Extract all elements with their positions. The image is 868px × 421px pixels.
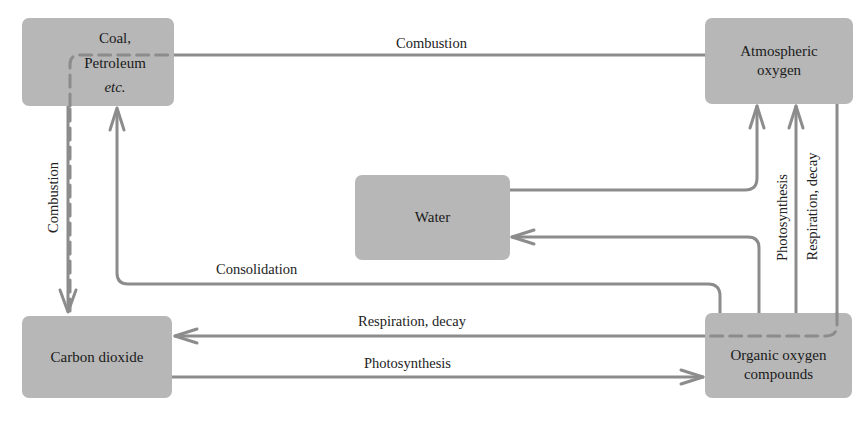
edge-label-combustion-left: Combustion	[45, 162, 62, 233]
node-water: Water	[355, 175, 510, 260]
organic-label-line2: compounds	[744, 365, 813, 384]
atmo-label-line2: oxygen	[757, 61, 801, 80]
atmo-label-line1: Atmospheric	[740, 42, 817, 61]
coal-label-line1: Coal,	[60, 29, 170, 48]
edge-label-respiration-bottom: Respiration, decay	[358, 313, 466, 330]
edge-label-respiration-right: Respiration, decay	[804, 153, 821, 261]
water-to-atmo-line	[510, 106, 757, 190]
edge-label-combustion-top: Combustion	[396, 35, 467, 52]
node-carbon-dioxide: Carbon dioxide	[22, 316, 172, 398]
edge-label-photosynthesis-right: Photosynthesis	[774, 174, 791, 261]
co2-label: Carbon dioxide	[51, 348, 144, 367]
edge-label-photosynthesis-bottom: Photosynthesis	[364, 355, 451, 372]
node-coal-petroleum: Coal, Petroleum etc.	[22, 18, 174, 106]
coal-label-line2: Petroleum	[60, 54, 170, 73]
edge-label-consolidation: Consolidation	[216, 261, 297, 278]
node-organic-oxygen-compounds: Organic oxygen compounds	[705, 313, 852, 398]
coal-label-line3: etc.	[60, 78, 170, 97]
organic-label-line1: Organic oxygen	[731, 346, 827, 365]
water-label: Water	[415, 208, 450, 227]
node-atmospheric-oxygen: Atmospheric oxygen	[705, 18, 853, 104]
organic-to-water-line	[512, 237, 759, 313]
